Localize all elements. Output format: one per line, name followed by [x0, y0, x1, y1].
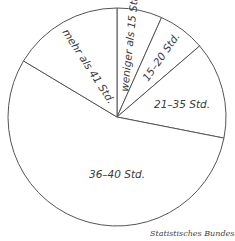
source-note: Statistisches Bundesamt	[150, 229, 235, 238]
pie-chart: weniger als 15 Std. 15–20 Std. 21–35 Std…	[0, 0, 235, 241]
slice-label-21-35: 21–35 Std.	[154, 98, 210, 110]
slice-label-36-40: 36–40 Std.	[89, 168, 145, 180]
pie-slices	[8, 8, 226, 226]
